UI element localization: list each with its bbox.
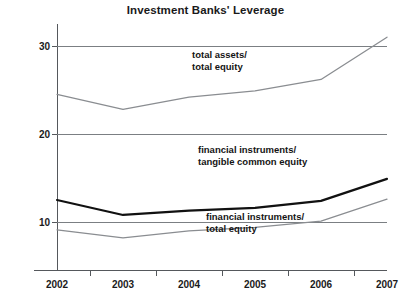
annotation-line-1: total assets/: [192, 49, 247, 61]
x-tick-mark-4: [288, 270, 289, 276]
x-tick-mark-2: [156, 270, 157, 276]
annotation-total-assets-total-equity: total assets/ total equity: [192, 49, 247, 72]
x-tick-mark-1: [90, 270, 91, 276]
annotation-financial-instruments-tangible-common-equity: financial instruments/ tangible common e…: [198, 144, 307, 167]
x-axis-label-2006: 2006: [310, 279, 332, 290]
y-axis-label-30: 30: [39, 41, 50, 52]
x-axis-label-2003: 2003: [112, 279, 134, 290]
y-axis-label-20: 20: [39, 129, 50, 140]
annotation-line-2: total equity: [206, 223, 304, 235]
annotation-line-1: financial instruments/: [206, 211, 304, 223]
annotation-line-2: tangible common equity: [198, 156, 307, 168]
chart-container: Investment Banks' Leverage 102030 200220…: [0, 0, 411, 299]
x-axis-line: [34, 270, 387, 271]
annotation-line-2: total equity: [192, 61, 247, 73]
x-axis-label-2005: 2005: [244, 279, 266, 290]
series-line-1: [57, 179, 387, 215]
annotation-line-1: financial instruments/: [198, 144, 307, 156]
annotation-financial-instruments-total-equity: financial instruments/ total equity: [206, 211, 304, 234]
chart-title: Investment Banks' Leverage: [0, 4, 411, 16]
x-axis-label-2007: 2007: [376, 279, 398, 290]
x-axis-label-2002: 2002: [46, 279, 68, 290]
x-axis-label-2004: 2004: [178, 279, 200, 290]
y-axis-label-10: 10: [39, 217, 50, 228]
x-tick-mark-3: [222, 270, 223, 276]
x-tick-mark-5: [354, 270, 355, 276]
